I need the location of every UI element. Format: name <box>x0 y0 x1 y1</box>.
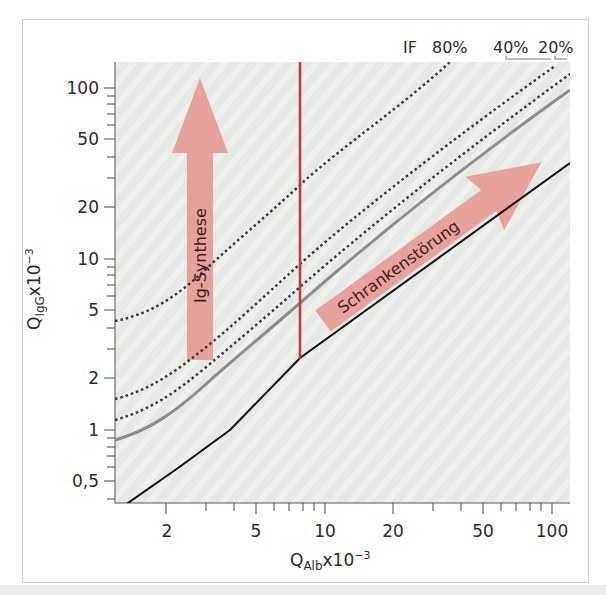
if-40-label: 40% <box>493 38 529 57</box>
x-axis-title: QAlbx10−3 <box>290 549 370 573</box>
svg-text:1: 1 <box>88 420 99 440</box>
svg-text:50: 50 <box>472 521 494 541</box>
if-80-label: 80% <box>432 38 468 57</box>
svg-text:2: 2 <box>88 368 99 388</box>
svg-text:10: 10 <box>77 249 99 269</box>
svg-text:20: 20 <box>382 521 404 541</box>
svg-text:10: 10 <box>314 521 336 541</box>
if-prefix: IF <box>403 38 417 57</box>
svg-text:5: 5 <box>251 521 262 541</box>
svg-text:100: 100 <box>67 78 99 98</box>
svg-text:20: 20 <box>77 197 99 217</box>
svg-text:2: 2 <box>162 521 173 541</box>
y-axis-ticks <box>104 88 115 499</box>
if-legend: IF 80% 40% 20% <box>403 38 574 59</box>
svg-text:5: 5 <box>88 300 99 320</box>
svg-text:0,5: 0,5 <box>72 471 99 491</box>
if-20-label: 20% <box>538 38 574 57</box>
svg-text:100: 100 <box>536 521 568 541</box>
chart-svg: 100 50 20 10 5 2 1 0,5 2 5 10 20 50 100 <box>0 0 606 595</box>
svg-text:50: 50 <box>77 129 99 149</box>
y-axis-title: QIgGx10−3 <box>23 248 47 330</box>
x-axis-ticks <box>166 503 552 514</box>
y-axis-tick-labels: 100 50 20 10 5 2 1 0,5 <box>67 78 99 491</box>
x-axis-tick-labels: 2 5 10 20 50 100 <box>162 521 569 541</box>
ig-synthese-label: Ig-Synthese <box>191 208 210 303</box>
